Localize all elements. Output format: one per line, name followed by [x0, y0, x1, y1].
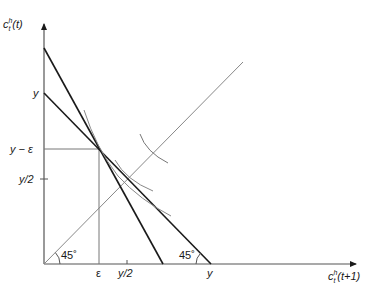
diagram-canvas: cth(t) cth(t+1) y y − ε y/2 ε y/2 y 45˚ …: [0, 0, 378, 292]
forty-five-degree-line: [44, 62, 243, 264]
angle-arc-right: [196, 253, 201, 264]
y-axis-label: cth(t): [3, 17, 23, 32]
x-tick-epsilon: ε: [96, 267, 101, 279]
y-tick-y: y: [32, 87, 40, 99]
x-tick-y-half: y/2: [117, 267, 133, 279]
indifference-curve-3: [140, 134, 168, 163]
diagram-svg: cth(t) cth(t+1) y y − ε y/2 ε y/2 y 45˚ …: [0, 0, 378, 292]
angle-label-origin: 45˚: [61, 249, 77, 261]
x-axis-label: cth(t+1): [328, 269, 361, 284]
x-tick-y: y: [206, 267, 214, 279]
angle-label-right: 45˚: [179, 249, 195, 261]
angle-arc-origin: [55, 253, 60, 264]
y-tick-y-half: y/2: [18, 173, 34, 185]
steep-budget-line: [44, 48, 163, 264]
y-tick-y-minus-epsilon: y − ε: [9, 143, 33, 155]
